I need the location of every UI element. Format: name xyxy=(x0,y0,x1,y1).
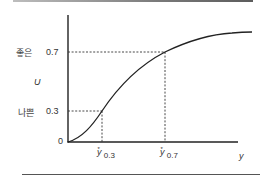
utility-curve-plot xyxy=(0,0,268,177)
x-tick-star: * xyxy=(98,146,100,152)
x-tick-star: * xyxy=(161,146,163,152)
y-axis-label: U xyxy=(34,77,41,87)
tick-label-0: 0 xyxy=(58,136,63,146)
tick-label-0-7: 0.7 xyxy=(46,47,59,57)
x-tick-sub: 0.3 xyxy=(104,151,115,160)
label-good: 좋은 xyxy=(16,46,32,59)
utility-curve xyxy=(68,32,252,142)
x-tick-y-star-0-3: y*0.3 xyxy=(97,147,115,157)
x-tick-sub: 0.7 xyxy=(167,151,178,160)
x-tick-y-star-0-7: y*0.7 xyxy=(160,147,178,157)
x-axis-label: y xyxy=(239,151,244,161)
tick-label-0-3: 0.3 xyxy=(46,106,59,116)
bottom-rule xyxy=(22,174,260,175)
label-bad: 나쁜 xyxy=(18,106,34,119)
